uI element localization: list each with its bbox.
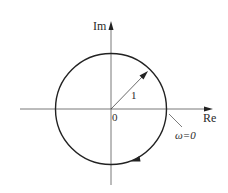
origin-label: 0 — [112, 111, 118, 123]
direction-arrow-icon — [131, 156, 141, 162]
radius-label: 1 — [131, 89, 137, 101]
omega-zero-leader-line — [169, 114, 182, 127]
nyquist-diagram: Im Re 0 1 ω=0 — [0, 0, 228, 193]
imaginary-axis — [109, 21, 114, 185]
y-axis-label: Im — [93, 19, 107, 33]
radius-vector — [111, 71, 148, 109]
x-axis-label: Re — [203, 111, 216, 125]
imaginary-axis-arrow-icon — [109, 21, 114, 30]
omega-zero-label: ω=0 — [175, 129, 196, 141]
